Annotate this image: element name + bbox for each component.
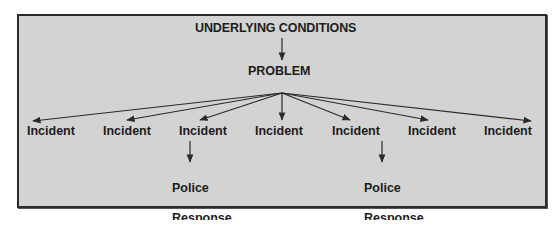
- incident-node-3: Incident: [179, 125, 227, 138]
- arrow-problem-to-incident-7: [282, 93, 531, 121]
- police-response-line1: Police: [364, 181, 424, 196]
- incident-node-7: Incident: [484, 125, 532, 138]
- underlying-conditions-node: UNDERLYING CONDITIONS: [195, 22, 356, 35]
- police-response-line2: Response: [172, 211, 232, 220]
- police-response-line1: Police: [172, 181, 232, 196]
- arrow-problem-to-incident-1: [33, 93, 282, 121]
- police-response-node-2: Police Response: [364, 166, 424, 220]
- police-response-line2: Response: [364, 211, 424, 220]
- incident-node-1: Incident: [27, 125, 75, 138]
- arrow-problem-to-incident-2: [127, 93, 282, 120]
- incident-node-2: Incident: [103, 125, 151, 138]
- incident-node-6: Incident: [408, 125, 456, 138]
- problem-node: PROBLEM: [248, 65, 311, 78]
- incident-node-5: Incident: [332, 125, 380, 138]
- police-response-node-1: Police Response: [172, 166, 232, 220]
- incident-node-4: Incident: [255, 125, 303, 138]
